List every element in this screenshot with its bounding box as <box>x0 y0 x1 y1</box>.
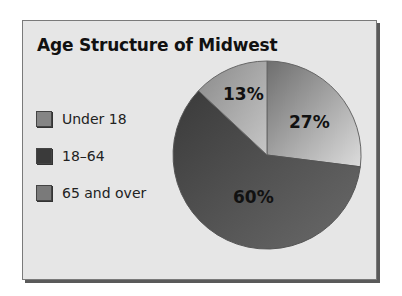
slice-label-18-64: 60% <box>233 187 274 207</box>
slice-label-under-18: 27% <box>289 112 330 132</box>
pie-chart: 27% 60% 13% <box>0 0 402 296</box>
slice-label-65-over: 13% <box>223 84 264 104</box>
